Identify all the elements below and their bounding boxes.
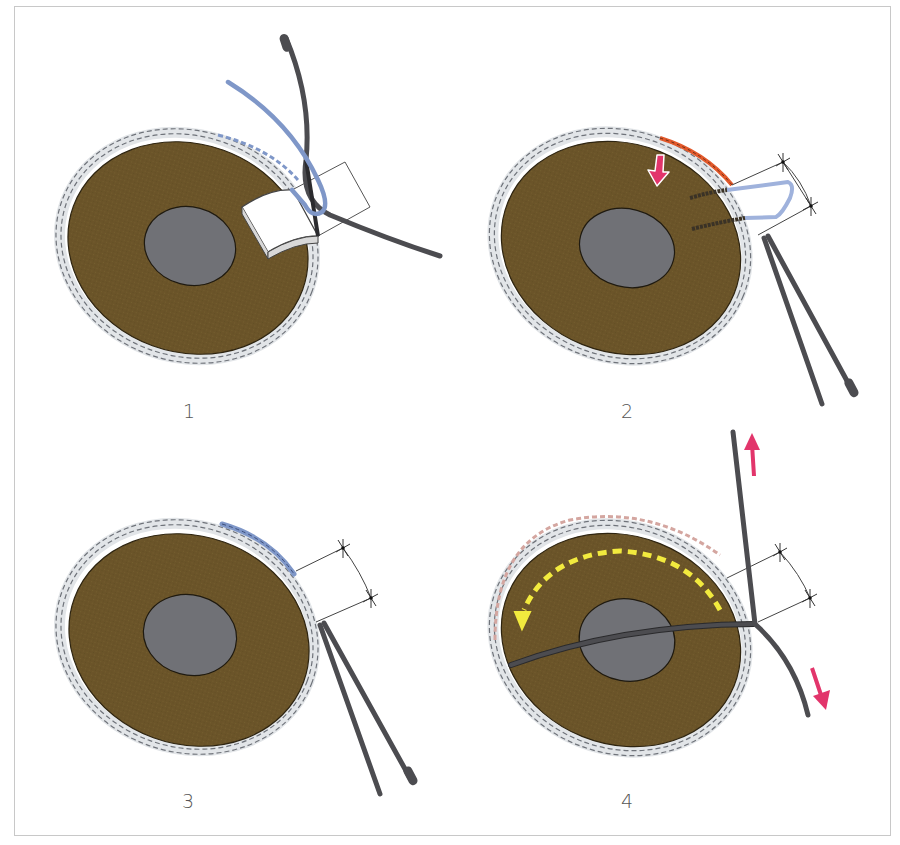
panel-1 [20, 33, 440, 402]
panel-label-3: 3 [182, 790, 194, 812]
tube-down [755, 624, 808, 715]
panel-label-4: 4 [621, 790, 633, 812]
dimension-point [808, 596, 812, 600]
dimension-point [781, 160, 785, 164]
dimension-point [778, 550, 782, 554]
panel-label-2: 2 [621, 400, 633, 422]
dimension-point [809, 204, 813, 208]
panel-4 [451, 432, 830, 797]
tube-tip [843, 377, 860, 399]
pull-down-arrow-icon [812, 668, 830, 710]
diagram-canvas [0, 0, 900, 845]
panel-2 [451, 87, 860, 405]
dimension-point [341, 546, 345, 550]
tube-tip [402, 765, 419, 787]
pull-up-arrow-icon [744, 433, 760, 476]
panel-3 [20, 481, 419, 794]
panel-label-1: 1 [183, 400, 195, 422]
dimension-point [369, 596, 373, 600]
